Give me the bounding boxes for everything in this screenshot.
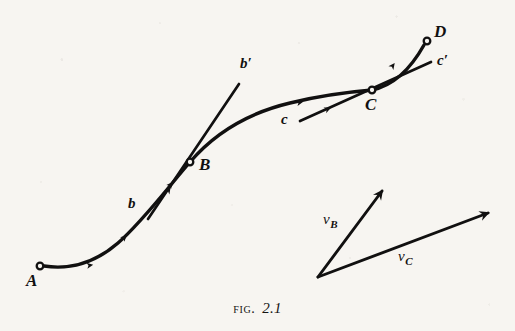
- tangent-label-b: b: [128, 196, 136, 211]
- trajectory-curve: [44, 45, 424, 268]
- point-marker-c: [369, 87, 376, 94]
- point-label-b: B: [199, 156, 211, 173]
- vector-label-vb-subscript: B: [330, 218, 337, 230]
- curve-arrow-5: [382, 64, 394, 80]
- tangent-b-segment: [148, 84, 239, 219]
- curve-segment-a-to-b: [44, 162, 190, 267]
- tangent-label-c-prime: c′: [437, 53, 448, 68]
- point-markers: [37, 38, 431, 270]
- figure-caption-word: Fig.: [233, 301, 255, 316]
- vector-label-vc-base: v: [398, 248, 405, 264]
- figure-caption-number: 2.1: [262, 300, 281, 316]
- point-marker-b: [187, 159, 194, 166]
- tangent-line-b: [148, 84, 239, 219]
- figure-2-1: A B C D b b′ c c′ vB vC Fig.2.1: [0, 0, 515, 331]
- figure-caption: Fig.2.1: [0, 300, 515, 317]
- point-marker-a: [37, 263, 44, 270]
- vector-label-vb: vB: [323, 212, 338, 230]
- point-label-c: C: [365, 96, 377, 113]
- tangent-label-b-prime: b′: [240, 56, 252, 71]
- vector-label-vc: vC: [398, 249, 413, 267]
- vector-label-vc-subscript: C: [405, 255, 412, 267]
- tangent-label-c: c: [281, 112, 288, 127]
- point-label-d: D: [434, 23, 446, 40]
- point-label-a: A: [26, 272, 38, 289]
- point-marker-d: [424, 38, 431, 45]
- figure-drawing: [0, 0, 515, 331]
- vector-label-vb-base: v: [323, 211, 330, 227]
